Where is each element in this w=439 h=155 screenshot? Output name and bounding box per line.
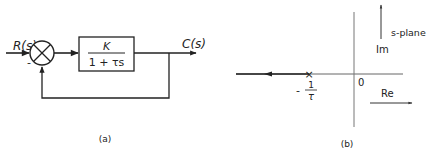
real-axis-label: Re (381, 88, 394, 99)
pole-label-numerator: 1 (308, 80, 314, 90)
caption-a: (a) (99, 134, 112, 144)
origin-label: 0 (358, 77, 364, 88)
block-denominator: 1 + τs (89, 56, 125, 69)
caption-b: (b) (341, 139, 354, 149)
block-numerator: K (103, 40, 111, 53)
output-label: C(s) (182, 37, 206, 51)
s-plane-diagram-b: × - 1 τ 0 Im s-plane Re (b) (236, 5, 426, 149)
locus-direction-arrow (264, 72, 272, 77)
minus-sign: - (27, 56, 31, 69)
imaginary-axis-label: Im (376, 44, 389, 55)
summing-junction (30, 41, 54, 65)
pole-label-sign: - (296, 84, 300, 97)
figure-canvas: R(s) - K 1 + τs C(s) (a) (0, 0, 439, 155)
transfer-function-block: K 1 + τs (79, 37, 134, 71)
pole-label: - 1 τ (296, 80, 317, 102)
s-plane-label: s-plane (391, 27, 426, 38)
pole-label-denominator: τ (308, 91, 315, 102)
block-diagram-a: R(s) - K 1 + τs C(s) (a) (6, 37, 206, 144)
